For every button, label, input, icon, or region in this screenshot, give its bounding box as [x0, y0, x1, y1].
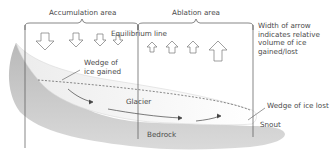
ablation-area-label: Ablation area	[172, 9, 220, 18]
down-arrow-medium-icon	[69, 33, 83, 47]
bedrock-label: Bedrock	[147, 131, 176, 140]
up-arrow-medium-icon	[187, 41, 199, 53]
snout-label: Snout	[260, 121, 281, 130]
glacier-label: Glacier	[126, 98, 151, 107]
up-arrow-large-icon	[209, 41, 227, 61]
down-arrow-medium-icon	[94, 34, 106, 46]
accumulation-area-label: Accumulation area	[49, 9, 116, 18]
up-arrow-small-icon	[147, 42, 157, 52]
ablation-arrows	[147, 41, 227, 61]
arrow-width-legend-note: Width of arrow indicates relative volume…	[258, 22, 320, 56]
down-arrow-large-icon	[36, 33, 54, 50]
wedge-lost-label: Wedge of ice lost	[267, 102, 329, 111]
wedge-gained-label: Wedge of ice gained	[84, 59, 121, 76]
equilibrium-line-label: Equilibrium line	[111, 30, 167, 39]
accumulation-arrows	[36, 33, 123, 50]
up-arrow-medium-icon	[166, 41, 178, 53]
